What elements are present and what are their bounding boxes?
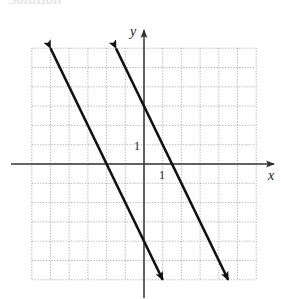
coordinate-plot: x y 1 1 [0,0,281,299]
y-tick-label: 1 [134,139,140,153]
y-axis-label: y [128,24,137,39]
x-axis-label: x [267,168,275,183]
x-tick-label: 1 [159,168,165,182]
